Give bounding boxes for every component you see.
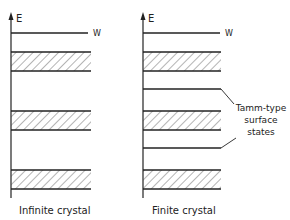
- energy-band: [11, 52, 91, 71]
- energy-axis-label: E: [148, 13, 154, 24]
- band-diagram: E W Infinite crystal E W: [0, 0, 290, 220]
- energy-axis-label: E: [16, 13, 22, 24]
- annotation-leader: [221, 138, 236, 148]
- energy-band: [143, 170, 221, 189]
- energy-band: [11, 111, 91, 130]
- annotation-line-3: states: [247, 127, 275, 137]
- vacuum-level-label: W: [93, 29, 101, 38]
- vacuum-level-label: W: [225, 29, 233, 38]
- finite-crystal-caption: Finite crystal: [152, 205, 216, 216]
- infinite-crystal-caption: Infinite crystal: [19, 205, 91, 216]
- energy-band: [143, 52, 221, 71]
- finite-crystal-diagram: E W Tamm-type surface states Finite crys…: [141, 12, 287, 216]
- annotation-line-1: Tamm-type: [235, 103, 287, 113]
- annotation-leader: [221, 89, 234, 104]
- energy-band: [11, 170, 91, 189]
- infinite-crystal-diagram: E W Infinite crystal: [9, 12, 102, 216]
- axis-arrow-icon: [141, 12, 146, 20]
- annotation-line-2: surface: [244, 115, 278, 125]
- energy-band: [143, 111, 221, 130]
- axis-arrow-icon: [9, 12, 14, 20]
